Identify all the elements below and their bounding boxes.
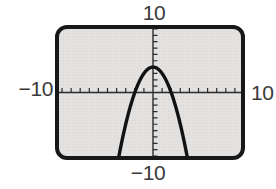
graph-plot — [59, 29, 241, 156]
y-min-label: −10 — [131, 162, 165, 183]
x-max-label: 10 — [251, 82, 274, 103]
figure-canvas: 10 −10 10 −10 — [0, 0, 276, 189]
y-max-label: 10 — [143, 2, 166, 23]
x-min-label: −10 — [0, 78, 53, 99]
calculator-screen — [55, 25, 245, 160]
